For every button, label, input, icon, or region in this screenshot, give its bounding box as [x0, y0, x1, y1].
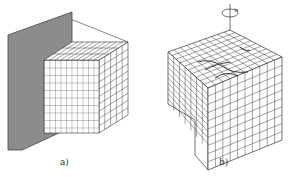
panel-b-label: b)	[219, 157, 228, 167]
panel-a-label: a)	[60, 157, 69, 167]
figure-canvas	[0, 0, 299, 177]
panel-b	[168, 4, 282, 170]
panel-a	[8, 12, 128, 150]
cube-a-front-face	[44, 60, 99, 133]
